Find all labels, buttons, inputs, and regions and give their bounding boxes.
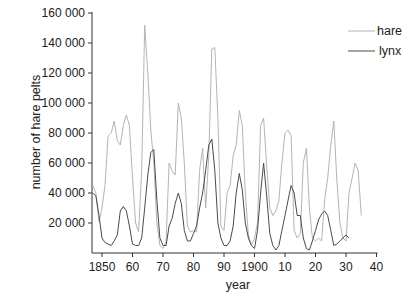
y-tick-label: 160 000	[42, 6, 86, 20]
x-tick-label: 20	[309, 260, 323, 274]
y-tick-label: 140 000	[42, 36, 86, 50]
legend-hare-label: hare	[377, 24, 402, 38]
x-tick-label: 40	[370, 260, 384, 274]
y-tick-label: 20 000	[48, 216, 85, 230]
y-axis-title: number of hare pelts	[29, 75, 43, 190]
x-tick-label: 30	[339, 260, 353, 274]
y-tick-label: 100 000	[42, 96, 86, 110]
y-tick-label: 40 000	[48, 186, 85, 200]
x-tick-label: 60	[126, 260, 140, 274]
x-tick-label: 70	[156, 260, 170, 274]
x-axis: 185060708090190010203040	[89, 253, 384, 274]
legend: hare lynx	[348, 24, 402, 58]
series-layer	[93, 25, 362, 250]
chart: 20 00040 00060 00080 000100 000120 00014…	[0, 0, 414, 297]
y-axis: 20 00040 00060 00080 000100 000120 00014…	[42, 6, 92, 253]
x-tick-label: 10	[278, 260, 292, 274]
legend-lynx-label: lynx	[379, 44, 402, 58]
x-tick-label: 1850	[89, 260, 116, 274]
x-tick-label: 90	[217, 260, 231, 274]
y-tick-label: 80 000	[48, 126, 85, 140]
y-tick-label: 60 000	[48, 156, 85, 170]
x-axis-title: year	[226, 278, 250, 292]
x-tick-label: 80	[187, 260, 201, 274]
y-tick-label: 120 000	[42, 66, 86, 80]
x-tick-label: 1900	[241, 260, 268, 274]
